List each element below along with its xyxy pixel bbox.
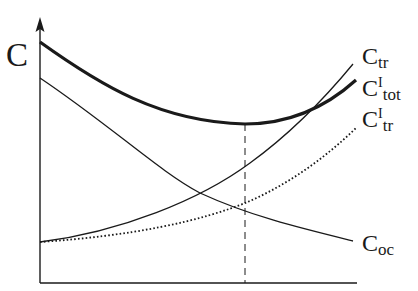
curve-c-tr — [40, 64, 353, 242]
label-c-tr: Ctr — [362, 43, 389, 72]
cost-diagram: C Ctr CItot CItr Coc — [0, 0, 418, 291]
curve-c-tr-i — [40, 128, 356, 242]
y-axis-label: C — [6, 37, 28, 73]
label-c-tot-i: CItot — [362, 75, 401, 104]
curve-c-oc — [40, 78, 353, 241]
label-c-oc: Coc — [362, 230, 395, 259]
label-c-tr-i: CItr — [362, 106, 393, 135]
axes — [36, 17, 358, 283]
